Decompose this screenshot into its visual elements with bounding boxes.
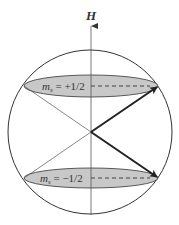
state-label-plus-half: ms = +1/2 xyxy=(42,80,85,94)
state-label-minus-half: ms = −1/2 xyxy=(40,172,83,186)
sphere-circle xyxy=(8,50,172,214)
field-axis-label: H xyxy=(85,8,97,23)
spin-diagram: H ms = +1/2 ms = −1/2 xyxy=(0,0,179,225)
